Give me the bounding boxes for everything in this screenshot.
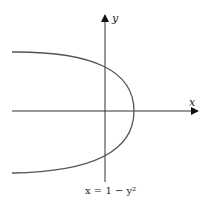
parabola-diagram: [0, 0, 209, 204]
y-axis-label: y: [112, 12, 118, 25]
equation-caption: x = 1 − y²: [85, 185, 136, 196]
parabola-curve: [12, 52, 134, 173]
x-axis-label: x: [189, 96, 195, 109]
y-axis-arrow-icon: [101, 14, 109, 22]
